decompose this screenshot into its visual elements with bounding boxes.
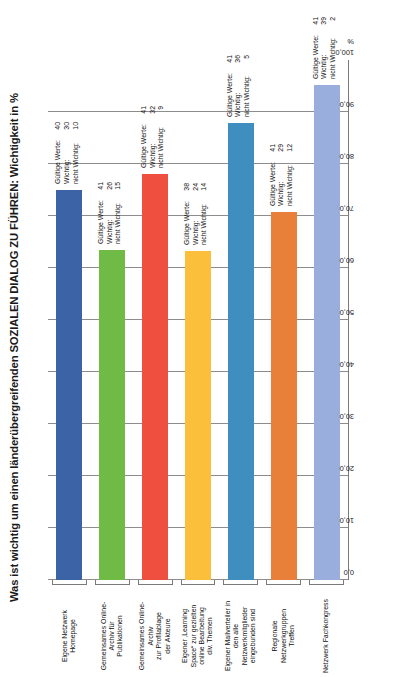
bar-value-annotation: Gültige Werte:38Wichtig:24nicht Wichtig:… bbox=[183, 183, 209, 245]
bar bbox=[185, 251, 211, 580]
annotation-row: Gültige Werte:38 bbox=[183, 183, 192, 245]
category-axis-bracket bbox=[138, 580, 173, 585]
category-label-line: Regionale bbox=[271, 588, 279, 677]
bar bbox=[271, 212, 297, 580]
annotation-value: 41 bbox=[97, 182, 106, 198]
annotation-value: 40 bbox=[54, 122, 63, 138]
bar-value-annotation: Gültige Werte:41Wichtig:29nicht Wichtig:… bbox=[269, 144, 295, 206]
annotation-label: Gültige Werte: bbox=[312, 33, 321, 79]
annotation-label: Gültige Werte: bbox=[269, 160, 278, 206]
annotation-label: Wichtig: bbox=[277, 160, 286, 206]
category-label-line: der Akteure bbox=[164, 588, 172, 677]
annotation-row: nicht Wichtig:5 bbox=[243, 55, 252, 117]
annotation-row: nicht Wichtig:15 bbox=[114, 182, 123, 244]
category-label: Netzwerk Fachkongress bbox=[322, 588, 330, 677]
annotation-value: 32 bbox=[149, 106, 158, 122]
annotation-label: Gültige Werte: bbox=[54, 138, 63, 184]
category-label-line: div. Themen bbox=[206, 588, 214, 677]
annotation-label: Gültige Werte: bbox=[140, 122, 149, 168]
annotation-label: Gültige Werte: bbox=[97, 198, 106, 244]
annotation-label: nicht Wichtig: bbox=[200, 199, 209, 245]
category-axis-bracket bbox=[95, 580, 130, 585]
category-label-line: Eigener Mailverteiler in bbox=[224, 588, 232, 677]
axis-tick-label: 100,0 bbox=[336, 48, 355, 57]
axis-tick-label: 20,0 bbox=[340, 464, 354, 473]
axis-tick-label: 70,0 bbox=[340, 204, 354, 213]
annotation-label: Wichtig: bbox=[234, 71, 243, 117]
bar bbox=[228, 123, 254, 580]
annotation-value: 2 bbox=[329, 17, 338, 33]
annotation-row: Wichtig:32 bbox=[149, 106, 158, 168]
bar bbox=[142, 174, 168, 580]
category-label-line: Netzwerkgruppen bbox=[280, 588, 288, 677]
bar-value-annotation: Gültige Werte:41Wichtig:39nicht Wichtig:… bbox=[312, 17, 338, 79]
bar-row bbox=[99, 60, 125, 580]
category-label-line: online Bearbeitung bbox=[198, 588, 206, 677]
annotation-row: Wichtig:24 bbox=[192, 183, 201, 245]
category-label-line: den alle bbox=[232, 588, 240, 677]
annotation-value: 41 bbox=[312, 17, 321, 33]
category-label-line: Eigene Netzwerk bbox=[61, 588, 69, 677]
annotation-value: 41 bbox=[226, 55, 235, 71]
annotation-value: 30 bbox=[63, 122, 72, 138]
annotation-row: Gültige Werte:41 bbox=[140, 106, 149, 168]
annotation-label: Wichtig: bbox=[320, 33, 329, 79]
annotation-value: 41 bbox=[269, 144, 278, 160]
annotation-label: Wichtig: bbox=[149, 122, 158, 168]
annotation-label: nicht Wichtig: bbox=[72, 138, 81, 184]
bar bbox=[56, 190, 82, 580]
annotation-value: 36 bbox=[234, 55, 243, 71]
bar-value-annotation: Gültige Werte:41Wichtig:26nicht Wichtig:… bbox=[97, 182, 123, 244]
chart-title: Was ist wichtig um einen länderübergreif… bbox=[8, 22, 20, 602]
annotation-label: Gültige Werte: bbox=[226, 71, 235, 117]
annotation-row: nicht Wichtig:10 bbox=[72, 122, 81, 184]
bar-row bbox=[228, 60, 254, 580]
axis-tick-label: 90,0 bbox=[340, 100, 354, 109]
category-axis-bracket bbox=[266, 580, 301, 585]
category-axis-bracket bbox=[223, 580, 258, 585]
annotation-value: 41 bbox=[140, 106, 149, 122]
annotation-value: 9 bbox=[157, 106, 166, 122]
bar-row bbox=[314, 60, 340, 580]
category-label: Gemeinsames Online-Archivzur Profilablag… bbox=[138, 588, 172, 677]
category-label-line: Archiv für bbox=[108, 588, 116, 677]
axis-tick-label: 0,0 bbox=[344, 568, 354, 577]
annotation-row: Gültige Werte:41 bbox=[269, 144, 278, 206]
annotation-label: Wichtig: bbox=[106, 198, 115, 244]
category-label-line: Archiv bbox=[147, 588, 155, 677]
category-label: Eigener Mailverteiler inden alleNetzwerk… bbox=[224, 588, 258, 677]
category-axis-bracket bbox=[52, 580, 87, 585]
axis-tick-label: 40,0 bbox=[340, 360, 354, 369]
axis-tick-label: 80,0 bbox=[340, 152, 354, 161]
annotation-label: nicht Wichtig: bbox=[286, 160, 295, 206]
category-label-line: Homepage bbox=[69, 588, 77, 677]
annotation-label: nicht Wichtig: bbox=[243, 71, 252, 117]
annotation-row: Wichtig:26 bbox=[106, 182, 115, 244]
axis-unit-label: % bbox=[347, 37, 354, 46]
bar-value-annotation: Gültige Werte:40Wichtig:30nicht Wichtig:… bbox=[54, 122, 80, 184]
category-label-line: Gemeinsames Online- bbox=[138, 588, 146, 677]
category-label-line: Netzwerkmitglieder bbox=[241, 588, 249, 677]
annotation-label: nicht Wichtig: bbox=[114, 198, 123, 244]
annotation-row: Wichtig:39 bbox=[320, 17, 329, 79]
category-label-line: zur Profilablage bbox=[155, 588, 163, 677]
plot-area: Gültige Werte:40Wichtig:30nicht Wichtig:… bbox=[48, 60, 348, 580]
category-label-line: Space“ zur gezielten bbox=[190, 588, 198, 677]
category-label: Gemeinsames Online-Archiv fürPublikation… bbox=[100, 588, 125, 677]
annotation-label: nicht Wichtig: bbox=[157, 122, 166, 168]
category-label-line: Publikationen bbox=[116, 588, 124, 677]
annotation-row: Wichtig:29 bbox=[277, 144, 286, 206]
axis-tick-label: 10,0 bbox=[340, 516, 354, 525]
bar bbox=[314, 85, 340, 580]
category-label: Eigene NetzwerkHomepage bbox=[61, 588, 78, 677]
annotation-row: Wichtig:30 bbox=[63, 122, 72, 184]
annotation-value: 29 bbox=[277, 144, 286, 160]
annotation-row: Gültige Werte:41 bbox=[226, 55, 235, 117]
category-label-line: Eigener ‚Learning bbox=[181, 588, 189, 677]
annotation-row: nicht Wichtig:9 bbox=[157, 106, 166, 168]
annotation-value: 5 bbox=[243, 55, 252, 71]
category-label-line: Netzwerk Fachkongress bbox=[322, 588, 330, 677]
bar-value-annotation: Gültige Werte:41Wichtig:32nicht Wichtig:… bbox=[140, 106, 166, 168]
annotation-value: 39 bbox=[320, 17, 329, 33]
